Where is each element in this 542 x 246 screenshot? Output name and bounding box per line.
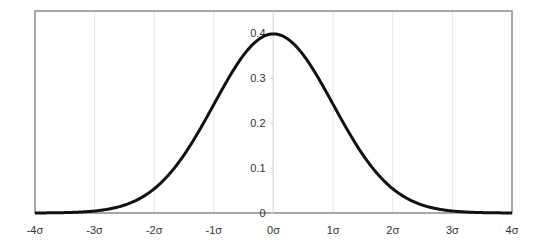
x-tick-label: 4σ [506, 224, 519, 236]
x-tick-label: 0σ [267, 224, 280, 236]
y-axis-ticks: 00.10.20.30.4 [250, 27, 273, 219]
x-tick-label: -3σ [86, 224, 103, 236]
y-tick-label: 0 [259, 207, 265, 219]
x-tick-label: 2σ [386, 224, 399, 236]
y-tick-label: 0.1 [250, 162, 265, 174]
y-tick-label: 0.3 [250, 72, 265, 84]
normal-distribution-chart: 00.10.20.30.4 -4σ-3σ-2σ-1σ0σ1σ2σ3σ4σ [0, 0, 542, 246]
x-tick-label: 3σ [446, 224, 459, 236]
y-tick-label: 0.2 [250, 117, 265, 129]
x-tick-label: -2σ [146, 224, 163, 236]
x-tick-label: -1σ [206, 224, 223, 236]
x-tick-label: -4σ [27, 224, 44, 236]
x-axis-ticks: -4σ-3σ-2σ-1σ0σ1σ2σ3σ4σ [27, 224, 519, 236]
x-tick-label: 1σ [327, 224, 340, 236]
